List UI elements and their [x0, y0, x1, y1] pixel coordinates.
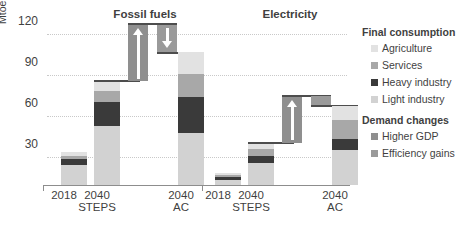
legend-item-light-industry[interactable]: Light industry: [371, 93, 458, 105]
segment-heavy-industry: [178, 97, 204, 133]
x-axis-label-line1: 2040: [224, 189, 278, 201]
legend-item-agriculture[interactable]: Agriculture: [371, 42, 458, 54]
segment-agriculture: [178, 52, 204, 74]
y-tick-label-120: 120: [4, 14, 38, 28]
x-axis-label-electricity-2040-ac: 2040 AC: [308, 189, 362, 213]
chart-root: Mtoe 120 90 60 30 Fossil fuels Electrici…: [0, 0, 458, 226]
segment-services: [178, 74, 204, 97]
legend-item-heavy-industry[interactable]: Heavy industry: [371, 76, 458, 88]
legend: Final consumption Agriculture Services H…: [362, 26, 458, 164]
plot-area: [47, 14, 347, 185]
gridline-120: [47, 34, 347, 35]
waterfall-bar-electricity-higher-gdp: [282, 96, 302, 143]
y-tick-label-90: 90: [4, 55, 38, 69]
x-axis-label-line2: STEPS: [224, 201, 278, 213]
legend-label-efficiency-gains: Efficiency gains: [382, 147, 455, 159]
legend-label-higher-gdp: Higher GDP: [382, 130, 439, 142]
y-tick-label-30: 30: [4, 137, 38, 151]
segment-agriculture: [332, 106, 358, 120]
legend-swatch-agriculture: [371, 45, 378, 52]
legend-group-title-demand-changes: Demand changes: [362, 114, 458, 126]
bar-electricity-2018: [215, 173, 241, 185]
segment-services: [332, 120, 358, 139]
bar-electricity-2040-ac: [332, 106, 358, 185]
segment-heavy-industry: [94, 102, 120, 126]
connector-fossil-gdp-top: [128, 23, 177, 25]
x-axis-label-line2: STEPS: [70, 201, 124, 213]
legend-swatch-efficiency-gains: [371, 150, 378, 157]
legend-swatch-services: [371, 62, 378, 69]
legend-swatch-heavy-industry: [371, 79, 378, 86]
x-axis-label-line1: 2040: [308, 189, 362, 201]
segment-light-industry: [61, 165, 87, 185]
x-axis-label-line2: AC: [308, 201, 362, 213]
segment-light-industry: [248, 163, 274, 185]
bar-electricity-2040-steps: [248, 143, 274, 185]
bar-fossil-2040-steps: [94, 81, 120, 185]
segment-heavy-industry: [248, 156, 274, 163]
legend-group-title-final-consumption: Final consumption: [362, 26, 458, 38]
segment-agriculture: [94, 81, 120, 91]
x-axis-label-line1: 2040: [70, 189, 124, 201]
legend-label-agriculture: Agriculture: [382, 42, 432, 54]
bar-fossil-2018: [61, 152, 87, 185]
segment-light-industry: [178, 133, 204, 185]
legend-label-light-industry: Light industry: [382, 93, 444, 105]
legend-label-heavy-industry: Heavy industry: [382, 76, 451, 88]
x-axis-line: [43, 185, 350, 186]
segment-services: [248, 149, 274, 156]
legend-item-higher-gdp[interactable]: Higher GDP: [371, 130, 458, 142]
legend-swatch-higher-gdp: [371, 133, 378, 140]
segment-heavy-industry: [332, 139, 358, 150]
y-tick-label-60: 60: [4, 96, 38, 110]
x-axis-label-line2: AC: [154, 201, 208, 213]
segment-services: [94, 91, 120, 102]
segment-light-industry: [94, 126, 120, 185]
x-axis-label-fossil-2040-steps: 2040 STEPS: [70, 189, 124, 213]
waterfall-bar-fossil-higher-gdp: [128, 24, 148, 81]
legend-item-services[interactable]: Services: [371, 59, 458, 71]
x-axis-label-electricity-2040-steps: 2040 STEPS: [224, 189, 278, 213]
segment-light-industry: [332, 150, 358, 185]
waterfall-bar-fossil-efficiency-gains: [157, 24, 177, 53]
bar-fossil-2040-ac: [178, 52, 204, 185]
legend-label-services: Services: [382, 59, 422, 71]
legend-item-efficiency-gains[interactable]: Efficiency gains: [371, 147, 458, 159]
legend-swatch-light-industry: [371, 96, 378, 103]
